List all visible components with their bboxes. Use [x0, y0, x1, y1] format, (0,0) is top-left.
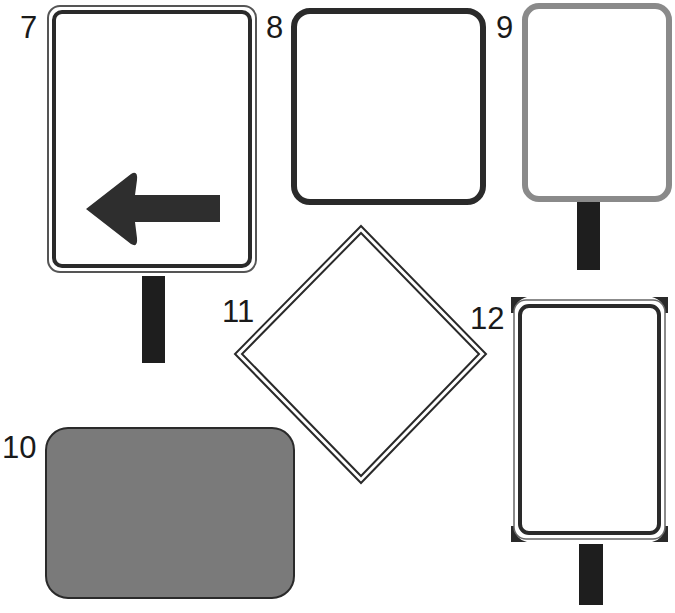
sign-9-border	[525, 6, 669, 199]
sign-12-post	[579, 544, 603, 605]
sign-12-inner-border	[520, 306, 659, 533]
sign-12	[511, 297, 668, 605]
sign-8-border	[294, 11, 483, 202]
sign-7-inner-border	[54, 12, 250, 266]
sign-9	[525, 6, 669, 270]
sign-10-body	[46, 428, 294, 598]
sign-9-post	[577, 202, 600, 270]
sign-8	[294, 11, 483, 202]
sign-7-post	[142, 276, 165, 363]
sign-7	[48, 6, 256, 363]
sign-10	[46, 428, 294, 598]
signs-canvas	[0, 0, 675, 613]
